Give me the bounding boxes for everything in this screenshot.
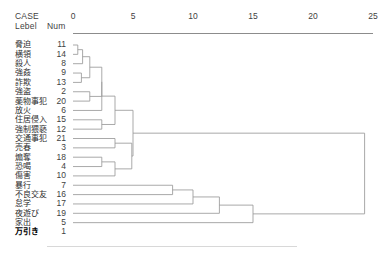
dendrogram-link-15 [73,190,193,204]
dendrogram-link-13 [115,110,133,156]
caption-rule [47,246,297,247]
dendrogram-link-14 [73,185,173,194]
dendrogram-link-16 [73,197,219,213]
dendrogram-link-2 [73,73,81,82]
dendrogram-link-17 [73,205,253,223]
dendrogram-link-10 [73,157,102,166]
dendrogram-figure: CASE Lebel Num 0510152025 脅迫11横領14殺人8強姦9… [0,0,383,264]
dendrogram-link-8 [102,96,115,124]
dendrogram-link-0 [73,45,78,54]
dendrogram-link-9 [73,139,115,148]
dendrogram-link-18 [133,133,365,214]
dendrogram-tree [0,0,383,264]
dendrogram-link-11 [73,162,115,176]
dendrogram-link-5 [90,67,102,96]
dendrogram-link-12 [115,143,132,169]
dendrogram-link-4 [73,92,90,101]
dendrogram-link-7 [73,120,102,129]
